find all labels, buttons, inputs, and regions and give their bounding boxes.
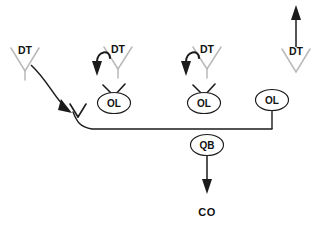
blocker-ol-left[interactable]: OL (98, 84, 131, 114)
quarterback-label: QB (200, 140, 215, 151)
arrowhead-icon (181, 61, 191, 76)
blocker-label: OL (107, 98, 121, 109)
defender-dt-inside-left[interactable]: DT (104, 43, 132, 78)
play-diagram-canvas: DT DT DT DT (0, 0, 319, 231)
defender-label: DT (18, 44, 33, 56)
target-label: CO (198, 206, 216, 218)
dt-right-upfield-arrow (291, 5, 301, 47)
block-mark-icon-right (78, 104, 86, 117)
blocker-ol-middle[interactable]: OL (188, 84, 221, 114)
dt-left-rush-arrow (31, 65, 72, 113)
arrowhead-icon (202, 179, 212, 194)
blocker-ol-right[interactable]: OL (256, 90, 289, 130)
slide-protection-line (73, 112, 272, 129)
blocker-label: OL (265, 95, 279, 106)
hook-arrow-path (186, 52, 199, 62)
defender-label: DT (111, 43, 126, 55)
dt-inside-left-hook-arrow (92, 52, 110, 76)
quarterback[interactable]: QB (191, 135, 224, 156)
defender-dt-left[interactable]: DT (11, 44, 39, 80)
hook-arrow-path (97, 52, 110, 62)
blocker-label: OL (197, 98, 211, 109)
defender-label: DT (200, 43, 215, 55)
arrowhead-icon (92, 61, 102, 76)
qb-drop-arrow (202, 156, 212, 194)
arrowhead-icon (291, 5, 301, 20)
protection-line-path (73, 112, 272, 129)
defender-dt-inside-right[interactable]: DT (193, 43, 221, 78)
curved-arrow-path (31, 65, 63, 105)
dt-inside-right-hook-arrow (181, 52, 199, 76)
play-diagram: DT DT DT DT (0, 0, 319, 231)
defender-dt-right[interactable]: DT (282, 45, 310, 72)
left-block-point (70, 104, 86, 117)
